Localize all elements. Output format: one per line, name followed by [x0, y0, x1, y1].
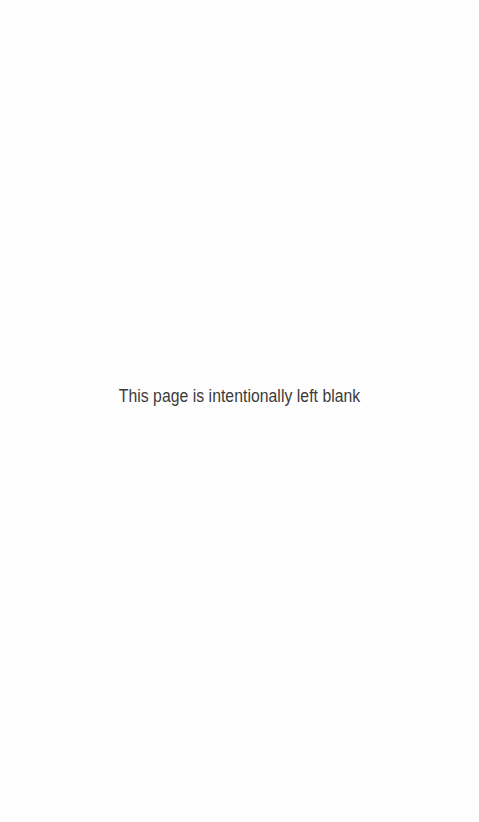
document-page: This page is intentionally left blank	[0, 0, 479, 822]
blank-page-notice: This page is intentionally left blank	[24, 386, 455, 407]
paper-grain-texture	[0, 0, 479, 822]
